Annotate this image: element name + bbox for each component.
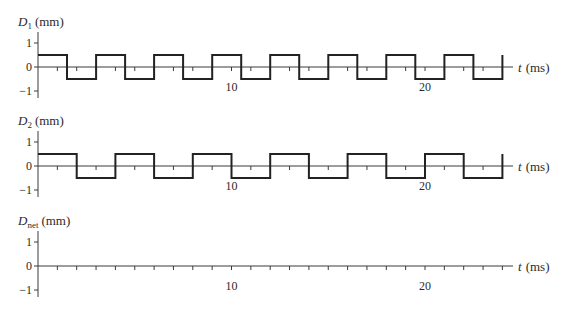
- y-tick-label: −1: [19, 283, 32, 297]
- x-axis-var: t: [518, 159, 522, 174]
- y-tick-label: −1: [19, 84, 32, 98]
- panel-d1: D1(mm)10−11020t(ms): [17, 14, 549, 98]
- x-axis-unit: (ms): [526, 259, 550, 274]
- y-axis-var: D: [17, 14, 28, 29]
- panel-d2: D2(mm)10−11020t(ms): [17, 113, 549, 197]
- y-tick-label: −1: [19, 183, 32, 197]
- x-tick-label: 10: [226, 80, 238, 94]
- y-axis-label: Dnet(mm): [17, 213, 70, 230]
- y-tick-label: 0: [26, 60, 32, 74]
- x-tick-label: 20: [419, 80, 431, 94]
- x-axis-var: t: [518, 60, 522, 75]
- y-axis-unit: (mm): [35, 14, 64, 29]
- x-tick-label: 20: [419, 179, 431, 193]
- y-axis-unit: (mm): [35, 113, 64, 128]
- y-axis-var: D: [17, 213, 28, 228]
- x-axis-label: t(ms): [518, 159, 549, 174]
- x-axis-label: t(ms): [518, 259, 549, 274]
- x-axis-label: t(ms): [518, 60, 549, 75]
- y-tick-label: 1: [26, 235, 32, 249]
- x-axis-unit: (ms): [526, 60, 550, 75]
- y-tick-label: 0: [26, 159, 32, 173]
- y-axis-subscript: 1: [27, 21, 32, 31]
- x-tick-label: 20: [419, 279, 431, 293]
- x-tick-label: 10: [226, 179, 238, 193]
- y-axis-unit: (mm): [41, 213, 70, 228]
- y-tick-label: 0: [26, 259, 32, 273]
- x-tick-label: 10: [226, 279, 238, 293]
- x-axis-var: t: [518, 259, 522, 274]
- x-axis-unit: (ms): [526, 159, 550, 174]
- y-axis-label: D1(mm): [17, 14, 64, 31]
- y-axis-subscript: 2: [27, 120, 32, 130]
- y-axis-var: D: [17, 113, 28, 128]
- y-tick-label: 1: [26, 135, 32, 149]
- panel-dnet: Dnet(mm)10−11020t(ms): [17, 213, 549, 297]
- wave-superposition-figure: D1(mm)10−11020t(ms) D2(mm)10−11020t(ms) …: [0, 0, 571, 334]
- y-axis-label: D2(mm): [17, 113, 64, 130]
- y-tick-label: 1: [26, 36, 32, 50]
- y-axis-subscript: net: [27, 220, 38, 230]
